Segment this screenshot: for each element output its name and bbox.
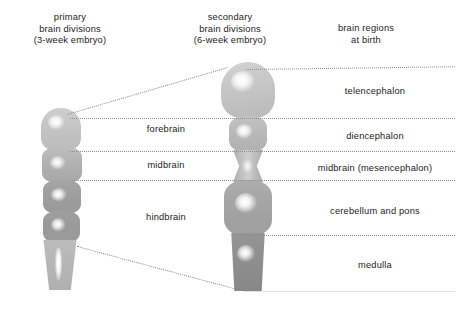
header-primary-line1: primary <box>10 12 130 24</box>
primary-brain-illustration <box>38 108 92 290</box>
bottom-baseline <box>243 291 455 292</box>
label-forebrain: forebrain <box>106 124 226 134</box>
primary-hindbrain-upper-highlight <box>51 188 67 202</box>
secondary-cerebellum-pons-segment <box>224 180 272 236</box>
secondary-medulla-segment <box>229 233 267 291</box>
column-header-brain-regions-at-birth: brain regions at birth <box>302 23 430 46</box>
column-header-secondary: secondary brain divisions (6-week embryo… <box>168 12 292 47</box>
divider-cerebellum-medulla <box>245 235 455 236</box>
header-secondary-line1: secondary <box>168 12 292 24</box>
label-medulla: medulla <box>296 260 454 270</box>
secondary-medulla-highlight <box>237 245 255 262</box>
label-midbrain: midbrain <box>106 160 226 170</box>
secondary-brain-illustration <box>216 62 278 291</box>
label-cerebellum-and-pons: cerebellum and pons <box>296 206 454 216</box>
divider-telencephalon-diencephalon <box>70 118 455 119</box>
header-birth-line1: brain regions <box>302 23 430 35</box>
divider-diencephalon-midbrain <box>70 151 455 152</box>
upper-diagonal-connector <box>67 67 228 115</box>
secondary-telencephalon-segment <box>221 62 275 118</box>
primary-spinal-cord-segment <box>42 240 78 290</box>
header-birth-line2: at birth <box>302 35 430 47</box>
primary-hindbrain-lower-segment <box>43 211 80 243</box>
primary-midbrain-segment <box>42 147 82 183</box>
secondary-mesencephalon-highlight <box>242 159 253 173</box>
header-secondary-line3: (6-week embryo) <box>168 35 292 47</box>
header-primary-line3: (3-week embryo) <box>10 35 130 47</box>
secondary-cerebellum-pons-highlight <box>235 193 257 213</box>
secondary-mesencephalon-segment <box>231 150 265 182</box>
secondary-telencephalon-highlight <box>231 71 255 92</box>
primary-hindbrain-upper-segment <box>43 180 81 214</box>
header-secondary-line2: brain divisions <box>168 24 292 36</box>
primary-hindbrain-lower-highlight <box>51 218 66 232</box>
label-diencephalon: diencephalon <box>296 131 454 141</box>
secondary-diencephalon-segment <box>229 116 267 152</box>
label-mesencephalon: midbrain (mesencephalon) <box>296 163 454 173</box>
divider-midbrain-hindbrain <box>70 180 455 181</box>
secondary-diencephalon-highlight <box>236 124 253 139</box>
primary-midbrain-highlight <box>50 156 66 170</box>
primary-spinal-cord-highlight <box>55 248 62 281</box>
label-hindbrain: hindbrain <box>106 212 226 222</box>
column-header-primary: primary brain divisions (3-week embryo) <box>10 12 130 47</box>
primary-forebrain-segment <box>41 108 81 150</box>
primary-forebrain-highlight <box>48 115 65 130</box>
brain-development-diagram: primary brain divisions (3-week embryo) … <box>0 0 459 311</box>
label-telencephalon: telencephalon <box>296 86 454 96</box>
header-primary-line2: brain divisions <box>10 24 130 36</box>
